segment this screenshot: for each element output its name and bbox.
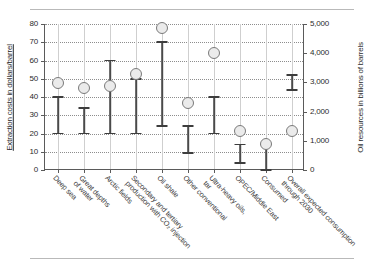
data-point-marker <box>78 82 90 94</box>
category-stem <box>292 24 293 169</box>
y-tick-right <box>303 24 307 25</box>
error-bar-cap <box>131 133 142 135</box>
error-bar <box>213 97 215 134</box>
data-point-marker <box>208 47 220 59</box>
error-bar-cap <box>105 133 116 135</box>
y-tick-label-right: 5,000 <box>310 20 329 28</box>
category-stem <box>84 24 85 169</box>
y-tick-right <box>303 141 307 142</box>
data-point-marker <box>130 68 142 80</box>
y-tick-label-right: 1,000 <box>310 137 329 145</box>
y-tick-left <box>41 24 45 25</box>
data-point-marker <box>156 22 168 34</box>
error-bar-cap <box>157 125 168 127</box>
x-axis-label: Oil shale <box>155 174 180 200</box>
error-bar-cap <box>209 96 220 98</box>
y-tick-label-right: 2,000 <box>310 108 329 116</box>
y-tick-right <box>303 112 307 113</box>
error-bar <box>109 61 111 134</box>
error-bar-cap <box>79 133 90 135</box>
y-tick-label-left: 60 <box>30 57 39 65</box>
plot-area: 0102030405060708001,0002,0003,0004,0005,… <box>44 24 304 170</box>
error-bar <box>83 108 85 134</box>
divider-top <box>30 9 354 10</box>
data-point-marker <box>104 80 116 92</box>
y-tick-left <box>41 97 45 98</box>
data-point-marker <box>260 138 272 150</box>
y-tick-label-right: 3,000 <box>310 78 329 86</box>
error-bar-cap <box>53 133 64 135</box>
divider-bottom <box>30 258 354 259</box>
error-bar-cap <box>287 89 298 91</box>
y-tick-right <box>303 82 307 83</box>
error-bar-cap <box>53 96 64 98</box>
error-bar-cap <box>183 152 194 154</box>
data-point-marker <box>286 125 298 137</box>
data-point-marker <box>182 97 194 109</box>
error-bar-cap <box>157 41 168 43</box>
y-tick-left <box>41 115 45 116</box>
y-tick-left <box>41 42 45 43</box>
error-bar <box>135 79 137 134</box>
error-bar <box>239 144 241 162</box>
data-point-marker <box>52 77 64 89</box>
y-tick-label-left: 50 <box>30 75 39 83</box>
y-tick-label-left: 40 <box>30 93 39 101</box>
figure-chart: Extraction costs in dollars/barrel Oil r… <box>0 0 384 272</box>
error-bar <box>161 42 163 126</box>
y-axis-title-right: Oil resources in billions of barrels <box>355 24 366 170</box>
y-tick-label-left: 70 <box>30 38 39 46</box>
error-bar <box>57 97 59 134</box>
x-axis-label: Overall expected consumption through 203… <box>279 174 357 254</box>
error-bar-cap <box>183 125 194 127</box>
error-bar-cap <box>235 144 246 146</box>
error-bar-cap <box>209 133 220 135</box>
y-tick-label-left: 30 <box>30 111 39 119</box>
y-axis-title-left: Extraction costs in dollars/barrel <box>4 24 15 170</box>
y-tick-label-left: 0 <box>34 166 38 174</box>
y-tick-label-right: 0 <box>310 166 314 174</box>
y-tick-label-right: 4,000 <box>310 49 329 57</box>
y-tick-right <box>303 53 307 54</box>
error-bar-cap <box>287 74 298 76</box>
x-axis-labels: Deep seaGreat depths of waterArctic fiel… <box>44 170 304 256</box>
error-bar-cap <box>105 60 116 62</box>
error-bar-cap <box>235 162 246 164</box>
y-tick-left <box>41 79 45 80</box>
y-tick-label-left: 80 <box>30 20 39 28</box>
y-tick-label-left: 10 <box>30 148 39 156</box>
y-tick-left <box>41 134 45 135</box>
y-tick-label-left: 20 <box>30 130 39 138</box>
y-axis-title-left-text: Extraction costs in dollars/barrel <box>5 44 14 151</box>
error-bar-cap <box>79 107 90 109</box>
error-bar <box>187 126 189 152</box>
y-tick-left <box>41 61 45 62</box>
data-point-marker <box>234 125 246 137</box>
y-axis-title-right-text: Oil resources in billions of barrels <box>356 42 365 153</box>
error-bar <box>291 75 293 90</box>
y-tick-left <box>41 152 45 153</box>
